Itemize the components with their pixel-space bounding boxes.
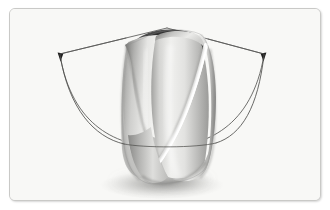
figure-container: Twisted ruled surface with angular sweep… — [0, 0, 330, 210]
twisted-surface — [121, 30, 216, 184]
surface-blade-highlight — [145, 49, 147, 127]
figure-svg — [10, 9, 320, 200]
figure-canvas — [10, 9, 320, 200]
